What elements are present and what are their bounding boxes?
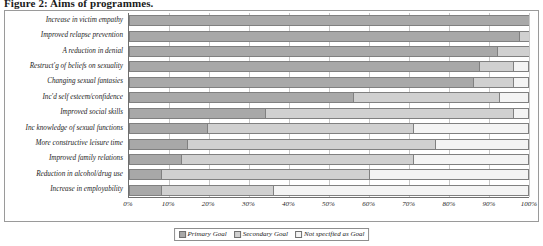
category-label: Improved social skills	[60, 109, 123, 116]
bar-row	[129, 92, 529, 103]
category-label: Restruct'g of beliefs on sexuality	[30, 63, 123, 70]
bar-segment-not-specified	[413, 123, 529, 134]
x-tick-label: 30%	[242, 200, 255, 208]
bar-segment-not-specified	[273, 185, 529, 196]
gridline	[529, 13, 530, 197]
bar-row	[129, 123, 529, 134]
bar-segment-secondary	[353, 92, 499, 103]
legend-label: Primary Goal	[188, 231, 227, 238]
x-tick-label: 0%	[123, 200, 132, 208]
bar-segment-secondary	[161, 169, 369, 180]
x-tick-label: 20%	[202, 200, 215, 208]
x-tick-label: 70%	[402, 200, 415, 208]
bar-segment-primary	[129, 139, 187, 150]
legend-label: Secondary Goal	[243, 231, 288, 238]
category-label: Increase in victim empathy	[46, 17, 123, 24]
x-tick-label: 50%	[322, 200, 335, 208]
bar-segment-secondary	[497, 46, 529, 57]
bar-row	[129, 46, 529, 57]
bar-segment-secondary	[181, 154, 413, 165]
category-label: A reduction in denial	[63, 48, 124, 55]
category-label: Improved family relations	[49, 155, 123, 162]
chart-frame: Increase in victim empathyImproved relap…	[4, 10, 539, 222]
bar-segment-primary	[129, 185, 161, 196]
bar-segment-primary	[129, 108, 265, 119]
legend-item: Not specified as Goal	[295, 231, 364, 238]
x-tick-label: 10%	[162, 200, 175, 208]
x-tick-label: 40%	[282, 200, 295, 208]
x-tick-label: 90%	[482, 200, 495, 208]
legend-swatch	[295, 231, 302, 238]
bar-segment-not-specified	[513, 77, 529, 88]
figure-container: Figure 2: Aims of programmes. Increase i…	[0, 0, 543, 246]
category-label: Increase in employability	[50, 186, 123, 193]
bar-segment-not-specified	[499, 92, 529, 103]
bar-segment-secondary	[207, 123, 413, 134]
legend-swatch	[179, 231, 186, 238]
bar-segment-primary	[129, 31, 519, 42]
bar-segment-secondary	[519, 31, 529, 42]
chart-legend: Primary GoalSecondary GoalNot specified …	[174, 228, 370, 241]
bar-segment-not-specified	[513, 108, 529, 119]
category-label: Inc'd self esteem/confidence	[42, 94, 123, 101]
x-axis-labels: 0%10%20%30%40%50%60%70%80%90%100%	[128, 200, 529, 212]
bar-segment-primary	[129, 123, 207, 134]
category-label: Changing sexual fantasies	[47, 78, 123, 85]
bar-segment-primary	[129, 77, 473, 88]
bar-segment-not-specified	[369, 169, 529, 180]
x-tick-label: 80%	[442, 200, 455, 208]
bar-row	[129, 31, 529, 42]
bar-row	[129, 61, 529, 72]
legend-label: Not specified as Goal	[304, 231, 364, 238]
bar-segment-primary	[129, 92, 353, 103]
bar-segment-secondary	[265, 108, 513, 119]
bar-segment-not-specified	[435, 139, 529, 150]
bar-segment-secondary	[187, 139, 435, 150]
bar-segment-primary	[129, 15, 529, 26]
bar-segment-primary	[129, 169, 161, 180]
bar-segment-primary	[129, 61, 479, 72]
bar-row	[129, 77, 529, 88]
bar-row	[129, 169, 529, 180]
bar-segment-primary	[129, 46, 497, 57]
legend-swatch	[234, 231, 241, 238]
bar-row	[129, 154, 529, 165]
bar-segment-primary	[129, 154, 181, 165]
category-label: Reduction in alcohol/drug use	[36, 171, 123, 178]
x-tick-label: 100%	[521, 200, 537, 208]
bar-segment-not-specified	[413, 154, 529, 165]
category-label: More constructive leisure time	[36, 140, 124, 147]
x-tick-label: 60%	[362, 200, 375, 208]
bar-segment-secondary	[161, 185, 273, 196]
category-label: Improved relapse prevention	[41, 32, 123, 39]
legend-item: Secondary Goal	[234, 231, 288, 238]
category-label: Inc knowledge of sexual functions	[26, 125, 123, 132]
bar-row	[129, 185, 529, 196]
bar-segment-secondary	[479, 61, 513, 72]
figure-title: Figure 2: Aims of programmes.	[4, 0, 153, 9]
bar-row	[129, 108, 529, 119]
bar-segment-not-specified	[513, 61, 529, 72]
plot-area	[128, 13, 529, 198]
bar-segment-secondary	[473, 77, 513, 88]
bar-row	[129, 139, 529, 150]
legend-item: Primary Goal	[179, 231, 227, 238]
bar-row	[129, 15, 529, 26]
category-axis-labels: Increase in victim empathyImproved relap…	[5, 13, 126, 198]
bar-rows	[129, 13, 529, 197]
